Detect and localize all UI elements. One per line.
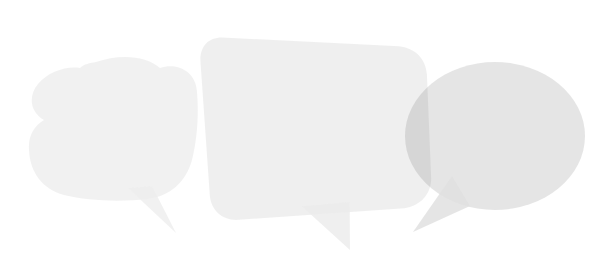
graphic-canvas [0, 0, 615, 276]
speech-bubble-middle-body [199, 23, 436, 221]
speech-bubble-right-body [405, 62, 585, 210]
speech-bubbles-illustration [0, 0, 615, 276]
speech-bubble-left-body [29, 57, 198, 201]
